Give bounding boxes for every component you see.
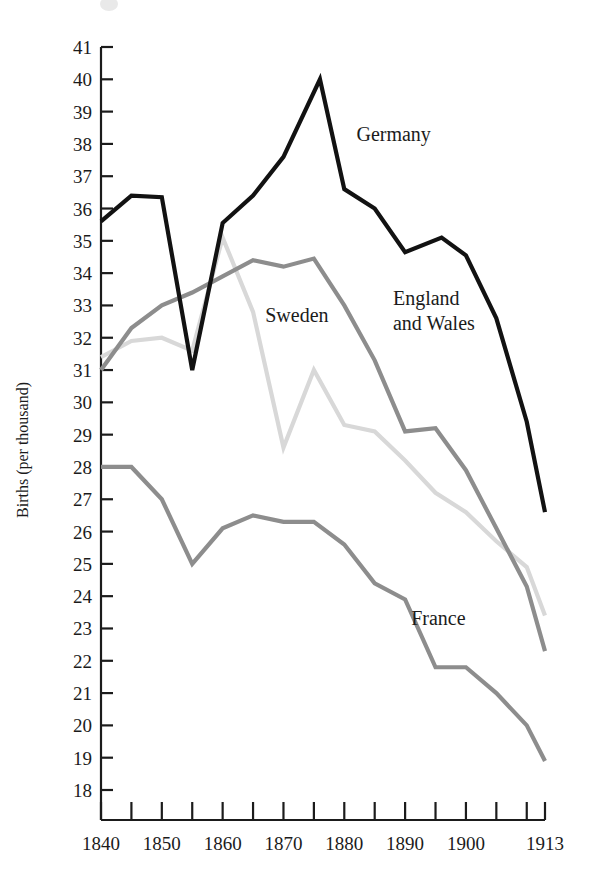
series-label-germany: Germany bbox=[356, 123, 430, 146]
y-tick-label-31: 31 bbox=[73, 360, 92, 381]
y-tick-label-40: 40 bbox=[73, 69, 92, 90]
y-tick-label-32: 32 bbox=[73, 328, 92, 349]
y-tick-label-27: 27 bbox=[73, 489, 92, 510]
x-tick-label-1913: 1913 bbox=[526, 833, 564, 854]
y-axis-title: Births (per thousand) bbox=[14, 382, 32, 518]
x-tick-label-1860: 1860 bbox=[204, 833, 242, 854]
y-tick-label-26: 26 bbox=[73, 522, 92, 543]
y-tick-label-25: 25 bbox=[73, 554, 92, 575]
y-tick-label-39: 39 bbox=[73, 102, 92, 123]
y-tick-label-23: 23 bbox=[73, 618, 92, 639]
y-tick-label-30: 30 bbox=[73, 392, 92, 413]
series-label-line: England bbox=[393, 287, 460, 310]
y-tick-label-41: 41 bbox=[73, 37, 92, 58]
y-tick-label-20: 20 bbox=[73, 715, 92, 736]
y-tick-label-37: 37 bbox=[73, 166, 92, 187]
x-tick-label-1840: 1840 bbox=[82, 833, 120, 854]
y-tick-label-24: 24 bbox=[73, 586, 93, 607]
y-tick-label-33: 33 bbox=[73, 295, 92, 316]
series-label-line: France bbox=[411, 607, 466, 629]
birth-rate-chart: 1819202122232425262728293031323334353637… bbox=[0, 0, 595, 885]
x-tick-label-1890: 1890 bbox=[386, 833, 424, 854]
x-tick-label-1900: 1900 bbox=[447, 833, 485, 854]
series-label-line: Germany bbox=[356, 123, 430, 146]
y-axis-title-text: Births (per thousand) bbox=[14, 382, 32, 518]
x-tick-label-1870: 1870 bbox=[264, 833, 302, 854]
series-label-line: Sweden bbox=[265, 304, 328, 326]
y-tick-label-34: 34 bbox=[73, 263, 93, 284]
chart-canvas: 1819202122232425262728293031323334353637… bbox=[0, 0, 595, 885]
y-tick-label-35: 35 bbox=[73, 231, 92, 252]
y-tick-label-38: 38 bbox=[73, 134, 92, 155]
y-tick-label-22: 22 bbox=[73, 651, 92, 672]
y-tick-label-36: 36 bbox=[73, 199, 92, 220]
series-label-france: France bbox=[411, 607, 466, 629]
y-tick-label-21: 21 bbox=[73, 683, 92, 704]
x-tick-label-1880: 1880 bbox=[325, 833, 363, 854]
series-label-line: and Wales bbox=[393, 312, 475, 334]
y-tick-label-19: 19 bbox=[73, 748, 92, 769]
x-tick-label-1850: 1850 bbox=[143, 833, 181, 854]
series-label-sweden: Sweden bbox=[265, 304, 328, 326]
y-tick-label-28: 28 bbox=[73, 457, 92, 478]
y-tick-label-29: 29 bbox=[73, 425, 92, 446]
y-tick-label-18: 18 bbox=[73, 780, 92, 801]
